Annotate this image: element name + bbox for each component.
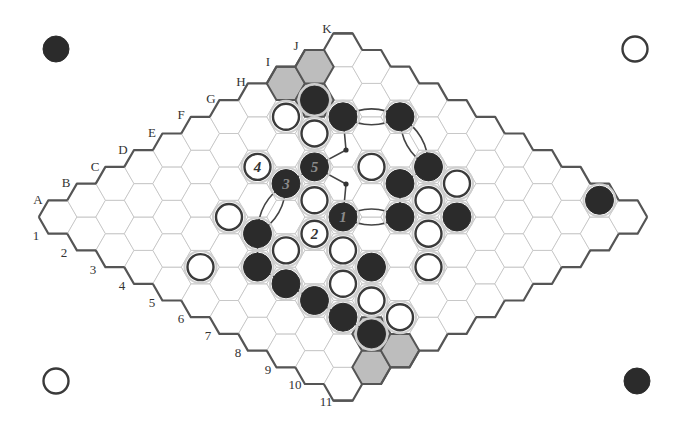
black-stone-icon	[358, 320, 386, 348]
stone-white-f9	[413, 251, 445, 283]
corner-marker-top-right-white-icon	[623, 37, 648, 62]
stone-white-h2	[270, 101, 302, 133]
white-stone-icon	[302, 187, 328, 213]
row-label-1: 1	[33, 228, 40, 243]
black-stone-icon	[443, 203, 471, 231]
row-label-10: 10	[289, 377, 302, 392]
white-stone-icon	[359, 154, 385, 180]
row-label-4: 4	[119, 278, 126, 293]
column-label-e: E	[148, 125, 156, 140]
white-stone-icon	[273, 237, 299, 263]
corner-marker-top-left-black-icon	[43, 36, 69, 62]
column-label-d: D	[118, 142, 127, 157]
row-label-6: 6	[178, 311, 185, 326]
row-label-7: 7	[205, 328, 212, 343]
stone-white-d9	[356, 285, 388, 317]
stone-white-d4	[213, 201, 245, 233]
black-stone-icon	[586, 186, 614, 214]
column-label-k: K	[322, 21, 332, 36]
black-stone-icon	[386, 170, 414, 198]
stone-white-h3	[299, 118, 331, 150]
stone-white-e6: 2	[299, 218, 331, 250]
stone-black-f4: 3	[270, 168, 302, 200]
white-stone-icon	[330, 271, 356, 297]
black-stone-icon	[329, 103, 357, 131]
corner-marker-bottom-right-black-icon	[624, 368, 650, 394]
white-stone-icon	[444, 171, 470, 197]
move-number-label: 5	[311, 159, 319, 175]
black-stone-icon	[272, 270, 300, 298]
column-label-f: F	[177, 107, 184, 122]
row-label-8: 8	[235, 345, 242, 360]
stone-white-f5	[299, 184, 331, 216]
stone-black-c8	[299, 285, 331, 317]
black-stone-icon	[329, 303, 357, 331]
stone-white-h5	[356, 151, 388, 183]
white-stone-icon	[273, 104, 299, 130]
stone-white-d8	[327, 268, 359, 300]
stone-black-k10	[584, 184, 616, 216]
stone-black-d5	[242, 218, 274, 250]
black-stone-icon	[415, 153, 443, 181]
move-number-label: 4	[253, 159, 262, 175]
column-label-c: C	[91, 159, 100, 174]
corner-marker-bottom-left-white-icon	[44, 369, 69, 394]
column-label-a: A	[33, 192, 43, 207]
move-number-label: 3	[281, 176, 290, 192]
black-stone-icon	[244, 253, 272, 281]
white-stone-icon	[359, 288, 385, 314]
white-stone-icon	[387, 304, 413, 330]
move-number-label: 1	[339, 209, 347, 225]
stone-black-c6	[242, 251, 274, 283]
stone-white-b5	[185, 251, 217, 283]
black-stone-icon	[301, 287, 329, 315]
stone-black-h8	[441, 201, 473, 233]
black-stone-icon	[358, 253, 386, 281]
stone-black-c9	[327, 301, 359, 333]
column-label-i: I	[266, 54, 270, 69]
stone-black-f6: 1	[327, 201, 359, 233]
white-stone-icon	[330, 237, 356, 263]
stone-black-j4	[384, 101, 416, 133]
white-stone-icon	[302, 121, 328, 147]
row-label-5: 5	[149, 295, 156, 310]
stone-white-f3: 4	[242, 151, 274, 183]
stone-white-i7	[441, 168, 473, 200]
stone-white-d10	[384, 301, 416, 333]
stone-black-i3	[327, 101, 359, 133]
stone-black-h6	[384, 168, 416, 200]
white-stone-icon	[216, 204, 242, 230]
junction-dot	[343, 181, 348, 186]
junction-dot	[343, 147, 348, 152]
column-label-j: J	[293, 38, 298, 53]
white-stone-icon	[188, 254, 214, 280]
stone-white-d6	[270, 234, 302, 266]
stone-black-i2	[299, 84, 331, 116]
stone-black-c10	[356, 318, 388, 350]
column-label-b: B	[62, 175, 71, 190]
row-label-3: 3	[90, 262, 97, 277]
hex-board-diagram: 45312 ABCDEFGHIJK1234567891011	[0, 0, 688, 426]
row-label-9: 9	[265, 362, 272, 377]
white-stone-icon	[416, 221, 442, 247]
black-stone-icon	[386, 203, 414, 231]
black-stone-icon	[244, 220, 272, 248]
row-label-11: 11	[320, 394, 333, 409]
stone-black-e8	[356, 251, 388, 283]
column-label-h: H	[236, 74, 245, 89]
black-stone-icon	[386, 103, 414, 131]
stone-black-c7	[270, 268, 302, 300]
white-stone-icon	[416, 254, 442, 280]
stone-black-i6	[413, 151, 445, 183]
column-label-g: G	[206, 91, 215, 106]
white-stone-icon	[416, 187, 442, 213]
stone-white-g8	[413, 218, 445, 250]
black-stone-icon	[301, 86, 329, 114]
move-number-label: 2	[310, 226, 319, 242]
row-label-2: 2	[61, 245, 68, 260]
stone-black-g4: 5	[299, 151, 331, 183]
stone-black-g7	[384, 201, 416, 233]
stone-white-e7	[327, 234, 359, 266]
stone-white-h7	[413, 184, 445, 216]
